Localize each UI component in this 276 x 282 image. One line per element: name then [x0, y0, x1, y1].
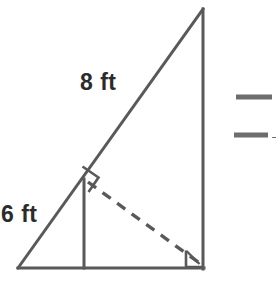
- legend-text-fragment: —: [272, 128, 276, 144]
- dashed-segment: [88, 182, 198, 262]
- triangle-diagram-svg: [0, 0, 276, 282]
- right-angle-mark-lower-icon: [186, 251, 203, 268]
- label-hypotenuse-length: 8 ft: [80, 71, 117, 94]
- geometry-figure: 8 ft 6 ft —: [0, 0, 276, 282]
- label-left-side-length: 6 ft: [1, 203, 38, 226]
- triangle-hypotenuse: [18, 9, 203, 268]
